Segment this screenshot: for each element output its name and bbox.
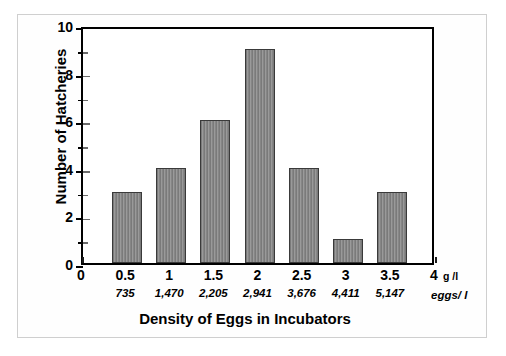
bar	[156, 168, 186, 263]
y-tick-major	[76, 218, 83, 220]
x-axis-primary-unit: g /l	[443, 270, 458, 282]
bar	[377, 192, 407, 263]
y-tick-label: 6	[33, 115, 73, 129]
x-axis-secondary-labels: 7351,4702,2052,9413,6764,4115,147	[81, 288, 434, 306]
figure-container: Number of Hatcheries 0246810 00.511.522.…	[0, 0, 506, 356]
y-tick-major	[76, 171, 83, 173]
x-tick	[435, 257, 437, 263]
y-tick-label: 4	[33, 163, 73, 177]
plot-area	[81, 27, 434, 265]
bar	[112, 192, 142, 263]
y-tick-label: 10	[33, 20, 73, 34]
y-tick-major	[76, 28, 83, 30]
bar	[200, 120, 230, 263]
y-tick-major	[76, 123, 83, 125]
x-tick-label-secondary: 5,147	[355, 288, 425, 300]
bar	[245, 49, 275, 263]
y-tick-major	[76, 76, 83, 78]
x-axis-title: Density of Eggs in Incubators	[60, 310, 430, 327]
x-axis-primary-labels: 00.511.522.533.54	[81, 268, 434, 286]
bars-layer	[83, 29, 432, 263]
x-axis-secondary-unit: eggs/ l	[431, 289, 467, 301]
y-tick-label: 8	[33, 68, 73, 82]
bar	[289, 168, 319, 263]
bar	[333, 239, 363, 263]
y-tick-label: 2	[33, 210, 73, 224]
